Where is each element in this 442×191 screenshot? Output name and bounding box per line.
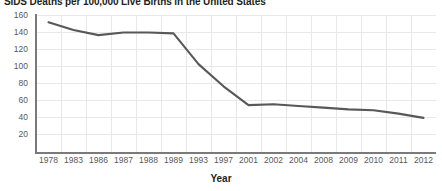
x-axis-tick-labels: 1978198319861987198819891993199720012002… [0, 156, 442, 170]
x-axis-tick-label: 2004 [285, 156, 313, 165]
sids-line-chart: SIDS Deaths per 100,000 Live Births in t… [0, 0, 442, 191]
x-axis-tick-label: 1986 [85, 156, 113, 165]
x-axis-tick-label: 2001 [235, 156, 263, 165]
x-axis-tick-label: 1978 [35, 156, 63, 165]
x-axis-tick-label: 1988 [135, 156, 163, 165]
x-axis-tick-label: 2012 [410, 156, 438, 165]
x-axis-tick-label: 2011 [385, 156, 413, 165]
x-axis-tick-label: 2002 [260, 156, 288, 165]
x-axis-tick-label: 1987 [110, 156, 138, 165]
x-axis-tick-label: 1993 [185, 156, 213, 165]
x-axis-tick-label: 2009 [335, 156, 363, 165]
x-axis-title: Year [0, 173, 442, 184]
x-axis-tick-label: 1989 [160, 156, 188, 165]
x-axis-tick-label: 1997 [210, 156, 238, 165]
x-axis-tick-label: 2008 [310, 156, 338, 165]
x-axis-tick-label: 2010 [360, 156, 388, 165]
x-axis-tick-label: 1983 [60, 156, 88, 165]
